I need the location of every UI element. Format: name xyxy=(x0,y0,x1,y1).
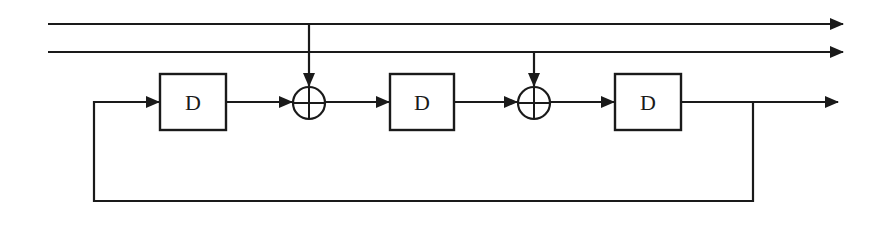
delay-block-1: D xyxy=(160,74,226,130)
lfsr-diagram: D D D xyxy=(0,0,884,228)
xor-adder-1-icon xyxy=(293,87,325,119)
delay-block-3: D xyxy=(615,74,681,130)
delay-block-2: D xyxy=(390,74,454,130)
delay-block-1-label: D xyxy=(185,90,201,115)
delay-block-2-label: D xyxy=(414,90,430,115)
xor-adder-2-icon xyxy=(518,87,550,119)
delay-block-3-label: D xyxy=(640,90,656,115)
